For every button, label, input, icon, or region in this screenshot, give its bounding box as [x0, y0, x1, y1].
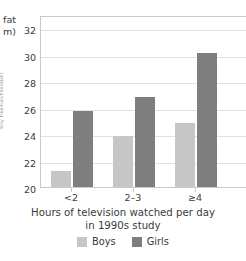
- x-category-label: 2–3: [125, 192, 142, 203]
- y-tick-label: 24: [24, 131, 36, 142]
- bar-boys-1: [113, 136, 133, 186]
- legend-item-boys[interactable]: Boys: [77, 236, 116, 247]
- bar-girls-2: [197, 53, 217, 187]
- x-axis-title-line-2: in 1990s study: [0, 219, 246, 232]
- legend-swatch-girls: [132, 237, 142, 247]
- x-axis-title-line-1: Hours of television watched per day: [0, 206, 246, 219]
- x-category-label: ≥4: [188, 192, 202, 203]
- legend-label: Girls: [147, 236, 169, 247]
- photo-credit: Tony Freeman/PhotoEdit: [0, 50, 4, 130]
- y-axis-title-line-1: fat: [0, 14, 16, 26]
- legend-swatch-boys: [77, 237, 87, 247]
- bar-boys-0: [51, 171, 71, 187]
- y-tick-label: 30: [24, 51, 36, 62]
- bar-girls-1: [135, 97, 155, 187]
- y-axis-title: fat m): [0, 14, 16, 37]
- y-tick-label: 20: [24, 184, 36, 195]
- gridline: [41, 30, 246, 31]
- y-tick-label: 22: [24, 157, 36, 168]
- bar-girls-0: [73, 111, 93, 186]
- x-axis-title: Hours of television watched per day in 1…: [0, 206, 246, 232]
- bar-chart: 20222426283032: [40, 16, 246, 188]
- legend-label: Boys: [92, 236, 116, 247]
- x-category-label: <2: [64, 192, 78, 203]
- chart-legend: BoysGirls: [0, 236, 246, 247]
- y-axis-title-line-2: m): [0, 26, 16, 38]
- x-axis-line: [41, 187, 246, 189]
- legend-item-girls[interactable]: Girls: [132, 236, 169, 247]
- bar-boys-2: [175, 123, 195, 187]
- y-tick-label: 26: [24, 104, 36, 115]
- y-tick-label: 32: [24, 25, 36, 36]
- plot-frame: 20222426283032: [40, 16, 246, 188]
- y-tick-label: 28: [24, 78, 36, 89]
